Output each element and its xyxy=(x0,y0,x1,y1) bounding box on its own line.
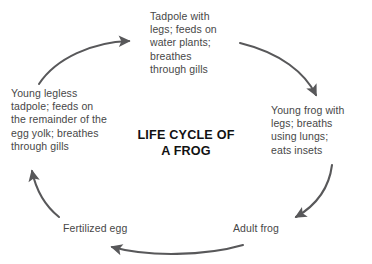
arrow-fertilized-egg-to-legless-tadpole xyxy=(32,171,59,217)
arrow-legless-tadpole-to-tadpole xyxy=(39,41,129,84)
stage-label-adult-frog: Adult frog xyxy=(233,222,333,235)
arrow-adult-frog-to-fertilized-egg xyxy=(112,245,243,254)
stage-label-fertilized-egg: Fertilized egg xyxy=(63,222,173,235)
stage-label-young-frog: Young frog with legs; breaths using lung… xyxy=(271,104,371,157)
diagram-title: LIFE CYCLE OF A FROG xyxy=(116,128,256,159)
arrow-young-frog-to-adult-frog xyxy=(296,165,332,217)
life-cycle-diagram: Tadpole with legs; feeds on water plants… xyxy=(0,0,372,264)
stage-label-tadpole-with-legs: Tadpole with legs; feeds on water plants… xyxy=(150,10,260,76)
